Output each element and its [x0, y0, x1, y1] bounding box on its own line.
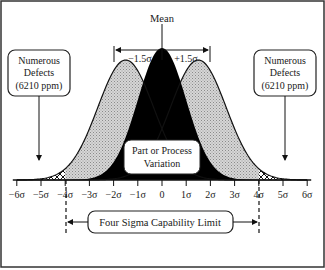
- left-callout-line1: Numerous: [18, 55, 60, 66]
- left-callout-line2: Defects: [24, 67, 55, 78]
- variation-label-box: Part or Process Variation: [124, 140, 200, 174]
- right-callout-line2: Defects: [270, 67, 301, 78]
- axis-tick-label: 6σ: [302, 189, 313, 200]
- axis-tick-label: −5σ: [33, 189, 50, 200]
- capability-limit-box: Four Sigma Capability Limit: [68, 211, 257, 233]
- right-callout-line3: (6210 ppm): [262, 80, 309, 92]
- axis-tick-label: 5σ: [278, 189, 289, 200]
- axis-tick-label: −3σ: [81, 189, 98, 200]
- center-label-line1: Part or Process: [132, 145, 192, 156]
- mean-label: Mean: [150, 13, 175, 24]
- center-label-line2: Variation: [144, 158, 181, 169]
- axis-tick-label: 3σ: [229, 189, 240, 200]
- diagram: −6σ−5σ−4σ−3σ−2σ−1σ01σ2σ3σ4σ5σ6σ Mean −1.…: [0, 0, 325, 270]
- axis-tick-label: −2σ: [106, 189, 123, 200]
- capability-limit-label: Four Sigma Capability Limit: [99, 217, 221, 228]
- axis-tick-label: 0: [160, 189, 165, 200]
- axis-tick-label: 1σ: [181, 189, 192, 200]
- axis-tick-label: −1σ: [130, 189, 147, 200]
- axis-tick-label: −6σ: [9, 189, 26, 200]
- axis-tick-label: 2σ: [205, 189, 216, 200]
- shift-right-label: +1.5σ: [174, 53, 198, 64]
- left-callout-line3: (6210 ppm): [16, 80, 63, 92]
- right-callout-line1: Numerous: [264, 55, 306, 66]
- shift-left-label: −1.5σ: [128, 53, 152, 64]
